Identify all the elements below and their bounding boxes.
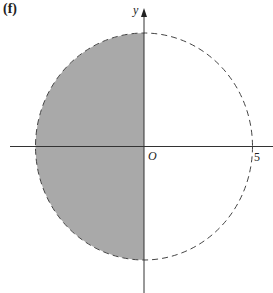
y-axis-arrow-icon: [141, 8, 147, 17]
x-tick-label-5: 5: [254, 150, 260, 165]
origin-label: O: [148, 149, 157, 164]
panel-label: (f): [3, 1, 17, 17]
diagram-canvas: [0, 0, 273, 293]
y-axis-label: y: [133, 3, 138, 18]
figure-panel: (f) y O 5: [0, 0, 273, 293]
